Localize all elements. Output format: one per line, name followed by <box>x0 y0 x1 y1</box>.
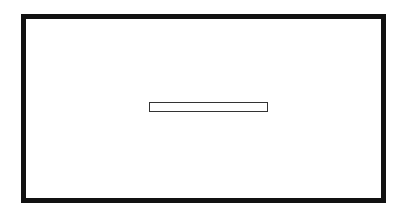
window-frame <box>21 14 386 203</box>
text-input[interactable] <box>149 102 268 112</box>
